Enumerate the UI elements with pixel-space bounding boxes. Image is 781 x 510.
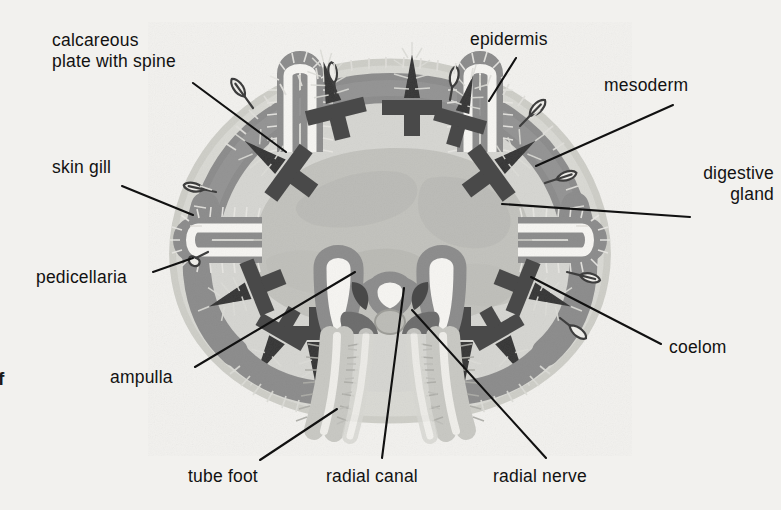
- label-mesoderm: mesoderm: [604, 75, 688, 96]
- label-calcareous-plate-with-spine: calcareousplate with spine: [52, 30, 176, 72]
- label-digestive-gland: digestivegland: [676, 163, 774, 205]
- pedicellaria-upper-left: [228, 76, 257, 111]
- label-tube-foot: tube foot: [188, 466, 258, 487]
- label-radial-canal: radial canal: [326, 466, 418, 487]
- label-line-1: epidermis: [470, 29, 548, 49]
- label-line-2: plate with spine: [52, 51, 176, 71]
- label-line-1: mesoderm: [604, 75, 688, 95]
- label-ampulla: ampulla: [110, 367, 173, 388]
- label-skin-gill: skin gill: [52, 157, 111, 178]
- label-line-1: radial canal: [326, 466, 418, 486]
- label-pedicellaria: pedicellaria: [36, 267, 127, 288]
- organism-illustration: [170, 42, 610, 436]
- page-edge-glyph: f: [0, 369, 4, 388]
- label-line-1: tube foot: [188, 466, 258, 486]
- label-coelom: coelom: [669, 337, 727, 358]
- label-line-2: gland: [730, 184, 774, 204]
- label-line-1: digestive: [703, 163, 774, 183]
- label-line-1: calcareous: [52, 30, 139, 50]
- label-line-1: pedicellaria: [36, 267, 127, 287]
- label-line-1: radial nerve: [493, 466, 587, 486]
- label-radial-nerve: radial nerve: [493, 466, 587, 487]
- label-epidermis: epidermis: [470, 29, 548, 50]
- label-line-1: skin gill: [52, 157, 111, 177]
- label-line-1: ampulla: [110, 367, 173, 387]
- label-line-1: coelom: [669, 337, 727, 357]
